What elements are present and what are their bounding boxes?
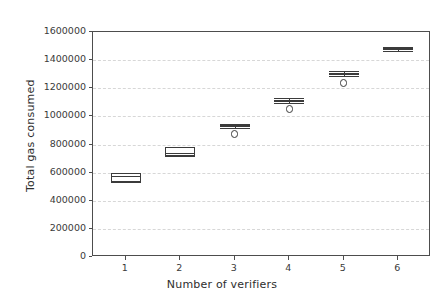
y-tick-label: 200000 [6,222,86,233]
boxplot-figure: Total gas consumed 020000040000060000080… [0,0,444,295]
x-tick-label: 3 [219,262,249,273]
y-tick-label: 1200000 [6,81,86,92]
x-tick-mark [234,256,235,260]
cap-lower [274,103,304,104]
median-line [165,153,195,154]
cap-upper [329,71,359,72]
x-tick-mark [179,256,180,260]
y-tick-label: 1400000 [6,53,86,64]
cap-lower [220,128,250,129]
y-tick-label: 1000000 [6,109,86,120]
gridline [93,60,429,61]
x-tick-label: 6 [382,262,412,273]
cap-lower [329,76,359,77]
box-iqr [165,147,195,156]
x-axis-label: Number of verifiers [0,278,444,291]
x-tick-mark [288,256,289,260]
y-tick-label: 800000 [6,138,86,149]
gridline [93,88,429,89]
y-tick-label: 400000 [6,194,86,205]
x-tick-label: 4 [273,262,303,273]
cap-lower [165,156,195,157]
plot-area [92,31,430,256]
outlier-marker [231,130,238,137]
outlier-marker [286,105,293,112]
x-tick-mark [397,256,398,260]
x-tick-mark [343,256,344,260]
outlier-marker [340,79,347,86]
x-tick-mark [125,256,126,260]
x-tick-label: 5 [328,262,358,273]
y-tick-mark [89,256,93,257]
y-tick-label: 1600000 [6,25,86,36]
median-line [274,101,304,102]
x-tick-label: 2 [164,262,194,273]
gridline [93,201,429,202]
gridline [93,229,429,230]
cap-upper [274,98,304,99]
y-tick-label: 0 [6,250,86,261]
x-tick-label: 1 [110,262,140,273]
cap-lower [111,182,141,183]
gridline [93,116,429,117]
box-iqr [111,173,141,182]
median-line [220,126,250,127]
gridline [93,145,429,146]
y-tick-label: 600000 [6,166,86,177]
median-line [383,49,413,50]
gridline [93,173,429,174]
cap-lower [383,51,413,52]
median-line [329,74,359,75]
median-line [111,176,141,177]
